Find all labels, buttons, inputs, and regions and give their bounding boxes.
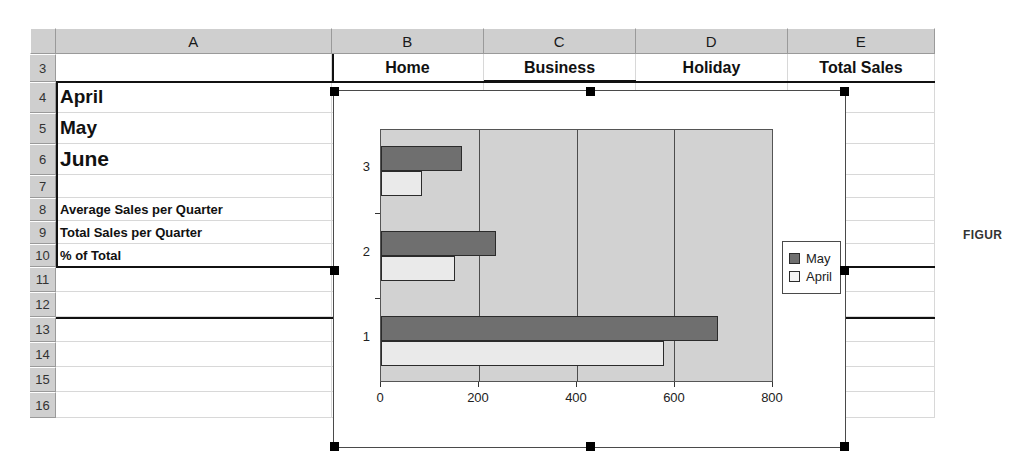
legend-entry-april[interactable]: April — [789, 269, 832, 284]
row-header-12[interactable]: 12 — [30, 292, 56, 317]
column-header-d[interactable]: D — [636, 28, 788, 54]
bar-april-cat2[interactable] — [381, 256, 455, 281]
resize-handle-bottom-left[interactable] — [330, 442, 339, 451]
rule-left-data — [56, 82, 58, 267]
bar-may-cat2[interactable] — [381, 231, 496, 256]
cell-a12[interactable] — [56, 292, 332, 317]
bar-april-cat3[interactable] — [381, 171, 422, 196]
chart-xlabel-0: 0 — [360, 390, 400, 405]
spreadsheet-grid[interactable]: A B C D E 3 4 5 6 7 8 9 10 11 12 13 14 1… — [30, 28, 935, 442]
bar-april-cat1[interactable] — [381, 341, 664, 366]
cell-c3[interactable]: Business — [484, 54, 636, 82]
chart-ytick-3: 3 — [334, 159, 370, 174]
resize-handle-middle-left[interactable] — [330, 266, 339, 275]
cell-a16[interactable] — [56, 392, 332, 418]
row-header-11[interactable]: 11 — [30, 267, 56, 292]
resize-handle-middle-right[interactable] — [840, 266, 849, 275]
cell-a15[interactable] — [56, 367, 332, 392]
rule-b3-left — [332, 54, 334, 82]
chart-plot-area — [380, 129, 773, 382]
resize-handle-top-left[interactable] — [330, 87, 339, 96]
column-header-c[interactable]: C — [484, 28, 636, 54]
resize-handle-bottom-center[interactable] — [586, 442, 595, 451]
cell-a14[interactable] — [56, 342, 332, 367]
chart-ytick-1: 1 — [334, 329, 370, 344]
chart-xlabel-800: 800 — [752, 390, 792, 405]
cell-a7[interactable] — [56, 175, 332, 198]
cell-a13[interactable] — [56, 317, 332, 342]
gridline-600 — [674, 130, 675, 381]
cell-d3[interactable]: Holiday — [636, 54, 788, 82]
chart-xtick-400 — [576, 382, 577, 387]
chart-xlabel-400: 400 — [556, 390, 596, 405]
row-header-4[interactable]: 4 — [30, 82, 56, 113]
chart-legend[interactable]: May April — [782, 241, 841, 294]
legend-entry-may[interactable]: May — [789, 251, 832, 266]
cell-a8[interactable]: Average Sales per Quarter — [56, 198, 332, 221]
column-header-a[interactable]: A — [56, 28, 332, 54]
row-header-5[interactable]: 5 — [30, 113, 56, 144]
row-header-3[interactable]: 3 — [30, 54, 56, 82]
cell-a11[interactable] — [56, 267, 332, 292]
cell-e3[interactable]: Total Sales — [788, 54, 935, 82]
row-header-15[interactable]: 15 — [30, 367, 56, 392]
cell-a3[interactable] — [56, 54, 332, 82]
row-header-8[interactable]: 8 — [30, 198, 56, 221]
row-header-9[interactable]: 9 — [30, 221, 56, 244]
cell-a5[interactable]: May — [56, 113, 332, 144]
legend-swatch-april-icon — [789, 271, 800, 282]
chart-xlabel-600: 600 — [654, 390, 694, 405]
cell-a9[interactable]: Total Sales per Quarter — [56, 221, 332, 244]
chart-xtick-600 — [674, 382, 675, 387]
legend-label-may: May — [806, 251, 831, 266]
chart-xtick-0 — [380, 382, 381, 387]
cell-a4[interactable]: April — [56, 82, 332, 113]
row-header-14[interactable]: 14 — [30, 342, 56, 367]
bar-may-cat1[interactable] — [381, 316, 718, 341]
legend-swatch-may-icon — [789, 253, 800, 264]
rule-c3-underline — [484, 80, 636, 82]
cell-a10[interactable]: % of Total — [56, 244, 332, 267]
resize-handle-top-right[interactable] — [840, 87, 849, 96]
bar-may-cat3[interactable] — [381, 146, 462, 171]
chart-xtick-800 — [772, 382, 773, 387]
chart-xtick-200 — [478, 382, 479, 387]
cell-a6[interactable]: June — [56, 144, 332, 175]
resize-handle-bottom-right[interactable] — [840, 442, 849, 451]
chart-ytick-mark-upper — [375, 213, 380, 214]
row-header-13[interactable]: 13 — [30, 317, 56, 342]
column-header-b[interactable]: B — [332, 28, 484, 54]
row-header-7[interactable]: 7 — [30, 175, 56, 198]
select-all-corner[interactable] — [30, 28, 56, 54]
cell-b3[interactable]: Home — [332, 54, 484, 82]
legend-label-april: April — [806, 269, 832, 284]
resize-handle-top-center[interactable] — [586, 87, 595, 96]
row-header-6[interactable]: 6 — [30, 144, 56, 175]
row-header-10[interactable]: 10 — [30, 244, 56, 267]
chart-ytick-2: 2 — [334, 244, 370, 259]
column-header-e[interactable]: E — [788, 28, 935, 54]
chart-xlabel-200: 200 — [458, 390, 498, 405]
figure-caption: FIGUR — [963, 228, 1002, 242]
row-header-16[interactable]: 16 — [30, 392, 56, 418]
embedded-chart[interactable]: 3 2 1 0 200 400 600 800 May April — [333, 90, 846, 448]
chart-ytick-mark-lower — [375, 298, 380, 299]
